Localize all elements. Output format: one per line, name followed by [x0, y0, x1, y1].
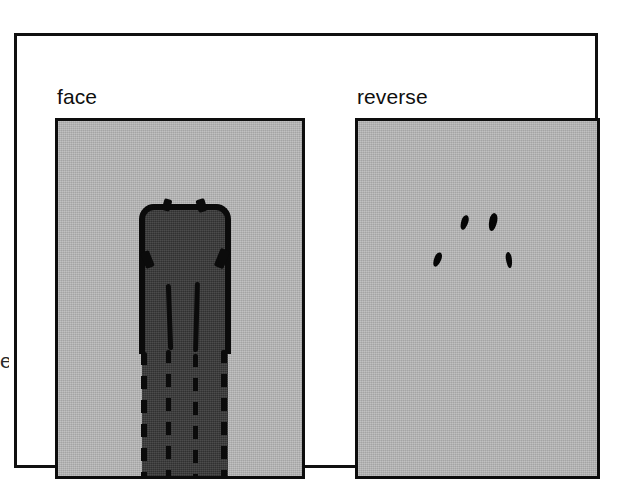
specimen-outline — [139, 204, 231, 354]
reverse-mark-4 — [505, 252, 513, 269]
specimen-dashed-edge-right — [221, 350, 227, 479]
panel-label-reverse: reverse — [357, 86, 428, 107]
figure-root: e face reverse — [0, 0, 624, 486]
figure-outer-frame: face reverse — [14, 33, 598, 468]
panel-face — [55, 118, 305, 479]
reverse-mark-3 — [431, 251, 443, 268]
reverse-mark-1 — [459, 214, 470, 230]
specimen-face — [139, 204, 231, 479]
specimen-dashed-groove-left — [166, 350, 171, 479]
reverse-mark-2 — [487, 212, 498, 231]
specimen-dashed-groove-right — [193, 354, 198, 479]
page-edge-artifact: e — [0, 352, 9, 369]
panel-label-face: face — [57, 86, 97, 107]
specimen-dashed-edge-left — [141, 352, 147, 479]
panel-reverse — [355, 118, 600, 479]
